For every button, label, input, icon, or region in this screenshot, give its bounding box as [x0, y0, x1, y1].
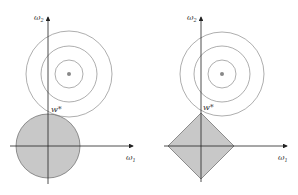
right-panel-l1: ω2 ω1 w* — [164, 13, 288, 182]
optimum-label: w* — [51, 105, 62, 114]
y-axis-label: ω2 — [34, 13, 44, 23]
x-axis-label: ω1 — [126, 153, 136, 163]
regularization-diagram: ω2 ω1 w* ω2 ω1 w* — [0, 0, 298, 195]
optimum-center-dot — [67, 72, 71, 76]
optimum-center-dot — [220, 72, 224, 76]
x-axis-label: ω1 — [278, 153, 288, 163]
y-axis-label: ω2 — [187, 13, 197, 23]
left-panel-l2: ω2 ω1 w* — [10, 13, 136, 184]
optimum-label: w* — [203, 103, 214, 112]
